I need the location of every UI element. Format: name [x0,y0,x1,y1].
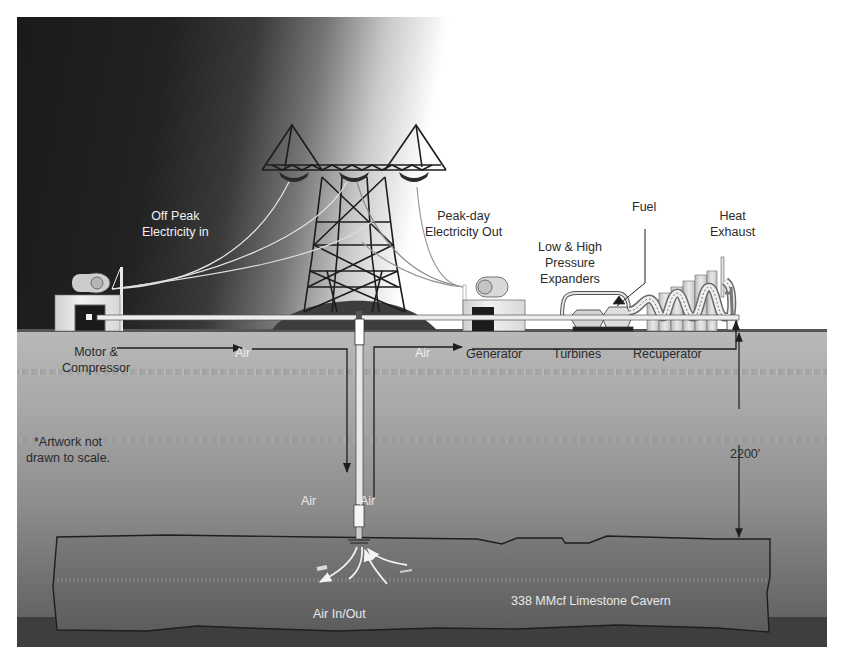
heat-exhaust-label-line2: Exhaust [710,224,755,240]
air-in-out-label: Air In/Out [313,606,366,622]
peak-day-label: Peak-day Electricity Out [425,208,502,240]
generator-label: Generator [466,346,522,362]
diagram-artwork [17,17,827,647]
air-up-label: Air [360,493,375,509]
transmission-tower [262,125,446,312]
heat-exhaust-label: Heat Exhaust [710,208,755,240]
peak-day-label-line2: Electricity Out [425,224,502,240]
expanders-label-line3: Expanders [538,271,602,287]
motor-compressor-label-line2: Compressor [62,360,130,376]
motor-compressor-label: Motor & Compressor [62,344,130,376]
air-label-right: Air [415,345,430,361]
limestone-cavern [53,535,770,632]
off-peak-label: Off Peak Electricity in [142,208,209,240]
expanders-label-line2: Pressure [538,255,602,271]
insulators [279,172,429,182]
surface-pipe [97,315,739,320]
expanders-label: Low & High Pressure Expanders [538,239,602,287]
fuel-label: Fuel [632,199,656,215]
scale-note-line2: drawn to scale. [26,450,110,466]
caes-diagram: Off Peak Electricity in Peak-day Electri… [17,17,827,647]
motor-compressor [55,267,123,331]
cavern-label: 338 MMcf Limestone Cavern [511,593,671,609]
peak-day-label-line1: Peak-day [425,208,502,224]
turbines-label: Turbines [553,346,601,362]
air-label-left: Air [235,345,250,361]
expanders-label-line1: Low & High [538,239,602,255]
recuperator-label: Recuperator [633,346,702,362]
air-down-label: Air [301,493,316,509]
depth-label: 2200' [730,446,760,462]
scale-note: *Artwork not drawn to scale. [26,434,110,466]
heat-exhaust-label-line1: Heat [710,208,755,224]
scale-note-line1: *Artwork not [26,434,110,450]
off-peak-label-line2: Electricity in [142,224,209,240]
turbines [522,293,647,331]
off-peak-label-line1: Off Peak [142,208,209,224]
motor-compressor-label-line1: Motor & [62,344,130,360]
generator-building [463,277,525,331]
